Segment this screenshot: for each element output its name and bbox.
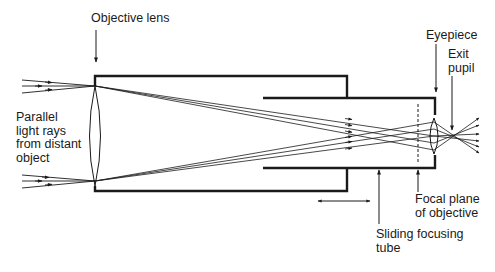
label-parallel-rays: Parallel light rays from distant object <box>16 111 81 165</box>
pointer-arrows <box>96 30 452 224</box>
label-objective-lens: Objective lens <box>91 12 170 26</box>
incoming-ray-bundle-bottom <box>22 175 95 188</box>
objective-lens <box>90 86 101 186</box>
incoming-ray-bundle-top <box>22 80 95 93</box>
telescope-diagram: Objective lens Parallel light rays from … <box>0 0 495 272</box>
label-eyepiece: Eyepiece <box>426 29 477 43</box>
label-focal-plane: Focal plane of objective <box>415 193 480 220</box>
rays-from-objective-bottom <box>95 122 434 181</box>
exit-pupil-crossing <box>434 118 479 153</box>
label-exit-pupil: Exit pupil <box>448 48 474 75</box>
rays-from-objective-top <box>95 86 434 150</box>
label-sliding-focusing-tube: Sliding focusing tube <box>376 228 464 255</box>
